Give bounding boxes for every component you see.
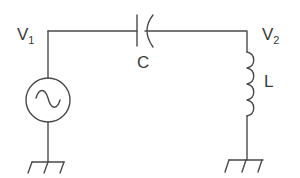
- node-label-v1: V1: [17, 26, 34, 46]
- v1-label-subscript: 1: [28, 34, 34, 46]
- v2-label-subscript: 2: [273, 34, 279, 46]
- inductor-label: L: [264, 73, 273, 90]
- v2-label-main: V: [262, 25, 273, 44]
- ac-source-icon: [26, 78, 70, 122]
- wire-capacitor-to-v2: [145, 31, 247, 52]
- circuit-diagram: V1 V2 C L: [0, 0, 300, 178]
- v1-label-main: V: [17, 25, 28, 44]
- node-label-v2: V2: [262, 26, 279, 46]
- capacitor-label: C: [137, 54, 149, 71]
- ground-icon-left: [28, 162, 64, 173]
- ground-icon-right: [225, 160, 263, 172]
- circuit-schematic: [0, 0, 300, 178]
- inductor-symbol: [247, 52, 254, 116]
